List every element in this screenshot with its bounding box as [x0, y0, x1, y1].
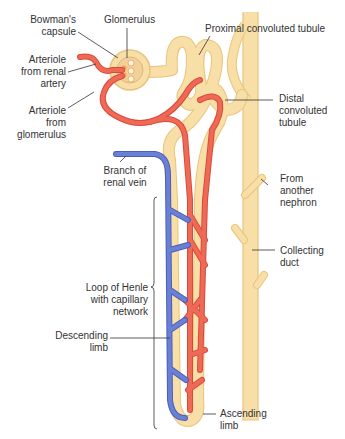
label-proximal-convoluted-tubule: Proximal convoluted tubule: [205, 23, 325, 35]
collecting-duct-shape: [232, 12, 264, 420]
label-branch-of-renal-vein: Branch of renal vein: [80, 165, 170, 189]
label-arteriole-from-glomerulus: Arteriole from glomerulus: [4, 105, 66, 141]
label-glomerulus: Glomerulus: [104, 14, 155, 26]
tubule-shape: [145, 42, 242, 421]
label-ascending-limb: Ascending limb: [220, 408, 267, 432]
label-loop-of-henle: Loop of Henle with capillary network: [30, 282, 148, 318]
label-distal-convoluted-tubule: Distal convoluted tubule: [279, 93, 327, 129]
label-collecting-duct: Collecting duct: [280, 245, 324, 269]
label-arteriole-from-renal-artery: Arteriole from renal artery: [4, 54, 66, 90]
label-descending-limb: Descending limb: [30, 330, 108, 354]
label-from-another-nephron: From another nephron: [280, 173, 317, 209]
label-bowmans-capsule: Bowman's capsule: [4, 14, 76, 38]
